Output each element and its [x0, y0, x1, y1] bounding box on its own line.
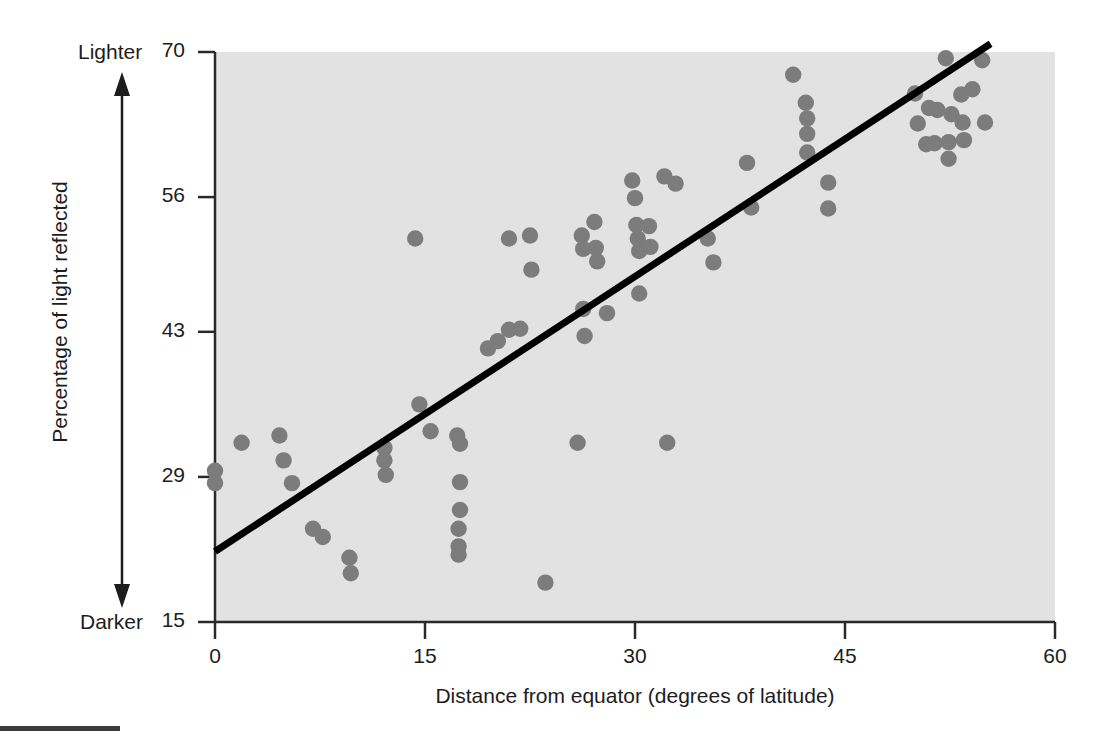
- x-axis-title: Distance from equator (degrees of latitu…: [215, 684, 1055, 708]
- data-point: [642, 239, 658, 255]
- x-tick-label: 0: [175, 644, 255, 668]
- data-point: [820, 200, 836, 216]
- data-point: [378, 467, 394, 483]
- data-point: [938, 50, 954, 66]
- data-point: [341, 550, 357, 566]
- data-point: [207, 475, 223, 491]
- data-point: [964, 81, 980, 97]
- data-point: [522, 227, 538, 243]
- data-point: [659, 435, 675, 451]
- data-point: [450, 546, 466, 562]
- data-point: [407, 230, 423, 246]
- data-point: [586, 214, 602, 230]
- data-point: [501, 230, 517, 246]
- y-axis-title: Percentage of light reflected: [48, 147, 72, 477]
- data-point: [799, 126, 815, 142]
- data-point: [705, 254, 721, 270]
- data-point: [641, 218, 657, 234]
- data-point: [233, 435, 249, 451]
- data-point: [315, 529, 331, 545]
- data-point: [343, 565, 359, 581]
- data-point: [799, 110, 815, 126]
- data-point: [275, 452, 291, 468]
- data-point: [452, 474, 468, 490]
- data-point: [940, 134, 956, 150]
- data-point: [284, 475, 300, 491]
- data-point: [576, 328, 592, 344]
- data-point: [910, 115, 926, 131]
- data-point: [956, 132, 972, 148]
- data-point: [631, 285, 647, 301]
- data-point: [926, 135, 942, 151]
- data-point: [798, 95, 814, 111]
- data-point: [422, 423, 438, 439]
- x-tick-marks: [215, 622, 1055, 639]
- data-point: [954, 114, 970, 130]
- page-footer-rule: [0, 726, 120, 731]
- data-point: [739, 155, 755, 171]
- data-points: [207, 50, 993, 591]
- data-point: [929, 102, 945, 118]
- data-point: [271, 427, 287, 443]
- data-point: [512, 321, 528, 337]
- data-point: [569, 435, 585, 451]
- data-point: [667, 175, 683, 191]
- data-point: [785, 67, 801, 83]
- data-point: [820, 174, 836, 190]
- data-point: [599, 305, 615, 321]
- data-point: [452, 502, 468, 518]
- y-tick-label: 29: [125, 463, 185, 487]
- y-tick-marks: [198, 52, 215, 622]
- data-point: [940, 151, 956, 167]
- x-tick-label: 15: [385, 644, 465, 668]
- y-tick-label: 15: [125, 608, 185, 632]
- data-point: [589, 253, 605, 269]
- y-tick-label: 56: [125, 183, 185, 207]
- x-tick-label: 60: [1015, 644, 1095, 668]
- data-point: [376, 452, 392, 468]
- data-point: [537, 574, 553, 590]
- data-point: [523, 261, 539, 277]
- data-point: [624, 172, 640, 188]
- data-point: [450, 521, 466, 537]
- x-tick-label: 45: [805, 644, 885, 668]
- data-point: [452, 436, 468, 452]
- x-tick-label: 30: [595, 644, 675, 668]
- regression-line: [215, 44, 991, 552]
- y-tick-label: 43: [125, 318, 185, 342]
- y-tick-label: 70: [125, 38, 185, 62]
- chart-figure: Lighter Darker Percentage of light refle…: [0, 0, 1118, 736]
- data-point: [627, 190, 643, 206]
- data-point: [977, 114, 993, 130]
